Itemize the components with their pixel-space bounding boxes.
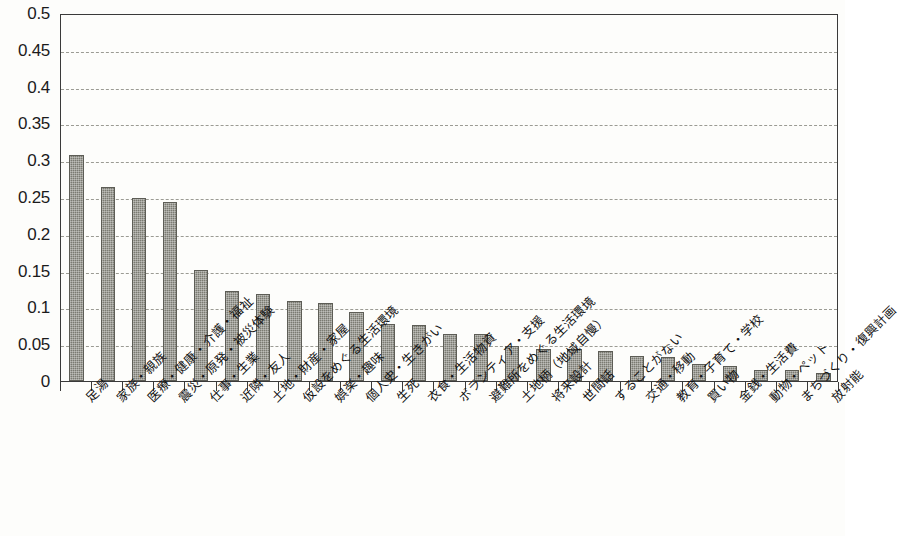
y-tick-label: 0.2 <box>27 225 50 245</box>
y-tick-label: 0 <box>41 372 50 392</box>
plot-area <box>60 14 838 382</box>
x-axis-labels: 足湯家族・親族医療・健康・介護・福祉震災・原発・被災体験仕事・生業近隣・友人土地… <box>60 392 838 536</box>
bar <box>69 155 83 381</box>
y-axis: 00.050.10.150.20.250.30.350.40.450.5 <box>0 0 56 400</box>
y-tick-label: 0.3 <box>27 151 50 171</box>
bars-group <box>61 15 837 381</box>
y-tick-label: 0.4 <box>27 78 50 98</box>
y-tick-label: 0.1 <box>27 298 50 318</box>
y-tick-label: 0.35 <box>18 114 50 134</box>
y-tick-label: 0.15 <box>18 262 50 282</box>
x-tick <box>60 382 61 391</box>
bar <box>101 187 115 381</box>
y-tick-label: 0.45 <box>18 41 50 61</box>
y-tick-label: 0.05 <box>18 335 50 355</box>
y-tick-label: 0.25 <box>18 188 50 208</box>
bar <box>132 198 146 381</box>
y-tick-label: 0.5 <box>27 4 50 24</box>
